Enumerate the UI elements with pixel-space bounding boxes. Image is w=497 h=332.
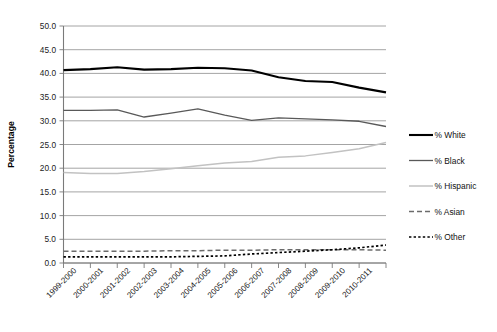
y-tick-label: 40.0 <box>40 68 57 78</box>
legend: % White% Black% Hispanic% Asian% Other <box>409 130 476 242</box>
legend-label-4: % Other <box>435 232 466 242</box>
series-line-hispanic <box>64 143 387 174</box>
legend-label-3: % Asian <box>435 207 466 217</box>
chart-container: 50.045.040.035.030.025.020.015.010.05.00… <box>0 0 497 332</box>
y-tick-label: 25.0 <box>40 140 57 150</box>
series-line-white <box>64 67 387 92</box>
x-axis-category-labels: 1999-20002000-20012001-20022002-20032003… <box>45 266 375 300</box>
legend-label-1: % Black <box>435 156 466 166</box>
y-tick-label: 30.0 <box>40 116 57 126</box>
line-chart: 50.045.040.035.030.025.020.015.010.05.00… <box>0 0 497 332</box>
y-tick-label: 10.0 <box>40 211 57 221</box>
y-axis-tick-labels: 50.045.040.035.030.025.020.015.010.05.00… <box>40 21 57 268</box>
x-axis <box>64 263 387 268</box>
y-tick-label: 5.0 <box>44 234 56 244</box>
gridlines <box>64 26 387 263</box>
y-axis-title-text: Percentage <box>6 121 16 168</box>
series-line-black <box>64 109 387 127</box>
y-axis <box>60 26 64 263</box>
x-category-label: 2010-2011 <box>341 266 375 300</box>
y-tick-label: 15.0 <box>40 187 57 197</box>
series-line-asian <box>64 250 387 251</box>
y-axis-title: Percentage <box>6 121 16 168</box>
legend-label-2: % Hispanic <box>435 181 477 191</box>
y-tick-label: 50.0 <box>40 21 57 31</box>
y-tick-label: 35.0 <box>40 92 57 102</box>
y-tick-label: 45.0 <box>40 45 57 55</box>
y-tick-label: 20.0 <box>40 163 57 173</box>
legend-label-0: % White <box>435 130 467 140</box>
y-tick-label: 0.0 <box>44 258 56 268</box>
data-series <box>64 67 387 257</box>
